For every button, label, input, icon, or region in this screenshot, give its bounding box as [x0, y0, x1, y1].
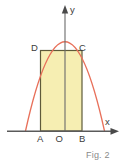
label-point-c: C: [79, 42, 86, 53]
rectangle-abcd: [41, 51, 83, 132]
label-point-a: A: [37, 133, 44, 144]
label-point-d: D: [31, 42, 38, 53]
y-axis-label: y: [70, 4, 75, 15]
figure-caption: Fig. 2: [86, 150, 110, 160]
x-axis-label: x: [105, 116, 110, 127]
x-axis-arrow-icon: [111, 128, 120, 135]
label-origin-o: O: [56, 133, 63, 144]
y-axis-arrow-icon: [62, 5, 68, 14]
parabola-rectangle-diagram: y x D C A O B Fig. 2: [0, 0, 122, 163]
figure-container: y x D C A O B Fig. 2: [0, 0, 122, 163]
label-point-b: B: [79, 133, 85, 144]
